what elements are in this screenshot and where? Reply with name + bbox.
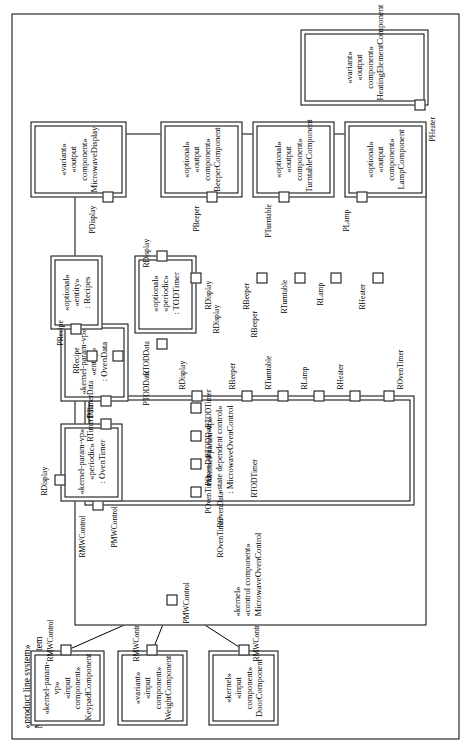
port-sdc-rbeeper[interactable]: [241, 390, 252, 401]
port-label-sdc-rheater: RHeater: [336, 364, 344, 389]
component-lamp-label: «optional» «output component» LampCompon…: [364, 122, 406, 196]
port-label-ovendata-ptimerdata: PTimerData: [86, 380, 94, 417]
port-turntable-pturntable[interactable]: [278, 191, 289, 202]
component-turntable-label: «optional» «output component» TurntableC…: [272, 122, 314, 196]
component-microwave-display[interactable]: «variant» «output component» MicrowaveDi…: [30, 121, 126, 197]
port-oventimer-rdisplay[interactable]: [54, 474, 65, 485]
port-sdc-rdisplay[interactable]: [191, 390, 202, 401]
connector-beeper[interactable]: [256, 272, 267, 283]
port-label-heater-pheater: PHeater: [428, 117, 436, 141]
port-heater-pheater[interactable]: [414, 99, 425, 110]
port-recipes-precipe[interactable]: [70, 323, 81, 334]
port-sdc-rturntable[interactable]: [277, 390, 288, 401]
connector-label-beeper: RBeeper: [242, 282, 250, 309]
port-sdc-ptoddata[interactable]: [190, 430, 201, 441]
port-label-sdc-rbeeper: RBeeper: [228, 362, 236, 389]
port-todtimer-rtoddata[interactable]: [156, 338, 167, 349]
component-door-label: «kernel» «input component» DoorComponent: [222, 651, 264, 724]
component-display-label: «variant» «output component» MicrowaveDi…: [57, 122, 99, 196]
port-label-bus-rovendata: ROvenData: [216, 491, 224, 527]
port-label-sdc-rlamp: RLamp: [300, 366, 308, 389]
port-label-bus-rtodtimer: RTODTimer: [250, 459, 258, 497]
port-sdc-poventimer[interactable]: [190, 486, 201, 497]
port-label-mid-rbeeper: RBeeper: [250, 310, 258, 337]
port-label-sdc-rmwcontrol: RMWControl: [78, 515, 86, 557]
port-display-pdisplay[interactable]: [102, 191, 113, 202]
component-door[interactable]: «kernel» «input component» DoorComponent: [208, 650, 278, 725]
connector-label-lamp: RLamp: [316, 282, 324, 305]
port-label-todtimer-rdisplay: RDisplay: [142, 238, 150, 267]
port-label-lamp-plamp: PLamp: [342, 209, 350, 231]
port-sdc-roventimer[interactable]: [383, 390, 394, 401]
port-beeper-pbeeper[interactable]: [206, 191, 217, 202]
connector-label-heater: RHeater: [358, 284, 366, 309]
port-label-sdc-roventimer: ROvenTimer: [396, 349, 404, 389]
port-door-rmwcontrol[interactable]: [238, 644, 249, 655]
component-keypad[interactable]: «kernel-param-vp» «input component» Keyp…: [30, 650, 104, 725]
component-weight-label: «variant» «input component» WeightCompon…: [131, 651, 173, 724]
port-label-turntable-pturntable: PTurntable: [264, 204, 272, 237]
port-todtimer-rdisplay[interactable]: [156, 250, 167, 261]
port-label-keypad-rmwcontrol: RMWControl: [46, 619, 54, 661]
diagram-canvas: «product line system» MicrowaveOvenSyste…: [0, 0, 470, 753]
connector-display[interactable]: [190, 272, 201, 283]
port-label-recipes-precipe: PRecipe: [56, 320, 64, 345]
diagram-page: «product line system» MicrowaveOvenSyste…: [0, 0, 470, 753]
connector-heater[interactable]: [372, 272, 383, 283]
port-label-sdc-ptodtimer: PTODTimer: [204, 389, 212, 427]
port-sdc-rheater[interactable]: [349, 390, 360, 401]
recipes-label: «optional» «entity» : Recipes: [60, 256, 91, 328]
port-label-beeper-pbeeper: PBeeper: [192, 205, 200, 231]
port-lamp-plamp[interactable]: [356, 191, 367, 202]
port-ovendata-rrecipe[interactable]: [86, 350, 97, 361]
port-label-display-pdisplay: PDisplay: [88, 205, 96, 233]
port-sdc-ptodtimer[interactable]: [190, 402, 201, 413]
component-turntable[interactable]: «optional» «output component» TurntableC…: [252, 121, 334, 197]
port-label-oventimer-rdisplay: RDisplay: [40, 466, 48, 495]
connector-label-turntable: RTurntable: [280, 279, 288, 313]
port-label-sdc-rdisplay: RDisplay: [178, 360, 186, 389]
port-control-pmwcontrol-1[interactable]: [166, 594, 177, 605]
component-beeper-label: «optional» «output component» BeeperComp…: [180, 122, 222, 196]
port-oventimer-rtimerdata[interactable]: [100, 418, 111, 429]
control-label: «kernel» «control component» MicrowaveOv…: [231, 496, 262, 616]
component-beeper[interactable]: «optional» «output component» BeeperComp…: [160, 121, 242, 197]
connector-lamp[interactable]: [330, 272, 341, 283]
port-label-control-pmwcontrol-1: PMWControl: [182, 582, 190, 623]
port-ovendata-rtoddata[interactable]: [112, 350, 123, 361]
port-label-ovendata-rrecipe: RRecipe: [72, 347, 80, 373]
port-label-mid-rdisplay: RDisplay: [212, 304, 220, 333]
port-weight-rmwcontrol[interactable]: [146, 644, 157, 655]
component-heater-label: «variant» «output component» HeatingElem…: [343, 30, 385, 104]
component-weight[interactable]: «variant» «input component» WeightCompon…: [117, 650, 187, 725]
port-ovendata-ptimerdata[interactable]: [100, 395, 111, 406]
component-keypad-label: «kernel-param-vp» «input component» Keyp…: [41, 651, 93, 724]
port-keypad-rmwcontrol[interactable]: [60, 644, 71, 655]
component-heating-element[interactable]: «variant» «output component» HeatingElem…: [300, 29, 428, 105]
port-label-control-pmwcontrol-2: PMWControl: [110, 506, 118, 547]
todtimer-label: «optional» «periodic» : TODTimer: [149, 258, 180, 328]
port-sdc-povendata[interactable]: [190, 458, 201, 469]
component-lamp[interactable]: «optional» «output component» LampCompon…: [344, 121, 426, 197]
object-recipes[interactable]: «optional» «entity» : Recipes: [50, 255, 102, 329]
port-label-sdc-ptoddata-2: PTODData: [142, 371, 150, 405]
port-label-todtimer-rtoddata: RTODData: [142, 341, 150, 375]
port-label-sdc-rturntable: RTurntable: [264, 355, 272, 389]
port-label-sdc-ptoddata: PTODData: [204, 423, 212, 457]
connector-turntable[interactable]: [294, 272, 305, 283]
port-sdc-rlamp[interactable]: [313, 390, 324, 401]
